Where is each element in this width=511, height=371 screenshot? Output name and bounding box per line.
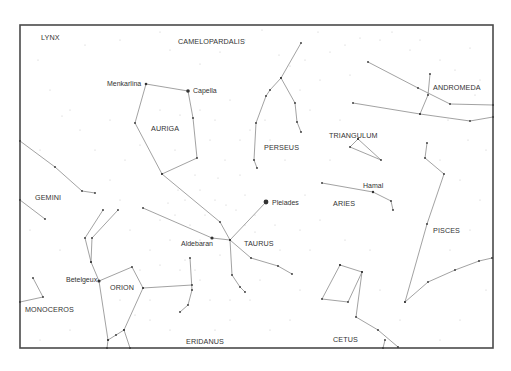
background-star (278, 54, 279, 55)
star-dot (291, 273, 293, 275)
star-dot (117, 209, 119, 211)
background-star (225, 204, 226, 205)
star-dot (81, 190, 83, 192)
star-dot (426, 223, 428, 225)
star-dot (426, 142, 428, 144)
background-star (159, 264, 160, 265)
background-star (319, 79, 320, 80)
background-star (69, 109, 70, 110)
constellation-label-monoceros: MONOCEROS (25, 305, 74, 314)
star-dot (244, 291, 246, 293)
constellation-label-pisces: PISCES (433, 226, 460, 235)
star-dot (404, 301, 406, 303)
star-dot (469, 120, 471, 122)
background-star (139, 269, 140, 270)
star-dot (84, 237, 86, 239)
background-star (159, 31, 160, 32)
background-star (149, 249, 150, 250)
star-dot (256, 167, 258, 169)
star-dot (107, 339, 109, 341)
background-star (59, 249, 60, 250)
chart-frame (20, 25, 493, 348)
background-star (177, 189, 178, 190)
star-dot (131, 266, 133, 268)
background-star (344, 44, 345, 45)
star-dot (191, 289, 193, 291)
constellation-label-triangulum: TRIANGULUM (329, 131, 378, 140)
star-dot (419, 113, 421, 115)
star-dot (42, 296, 44, 298)
background-star (179, 114, 180, 115)
background-star (194, 269, 195, 270)
background-star (379, 289, 380, 290)
star-dot (90, 261, 92, 263)
star-dot (296, 121, 298, 123)
background-star (439, 59, 440, 60)
background-star (249, 299, 250, 300)
background-star (204, 214, 205, 215)
star-dot (392, 209, 394, 211)
background-star (239, 139, 240, 140)
star-dot (367, 61, 369, 63)
star-label-menkarlina: Menkarlina (107, 80, 141, 87)
background-star (79, 129, 80, 130)
star-dot (491, 257, 493, 259)
background-star (119, 299, 120, 300)
star-dot (347, 301, 349, 303)
background-star (214, 119, 215, 120)
star-dot (253, 159, 255, 161)
background-star (229, 299, 230, 300)
background-star (391, 31, 392, 32)
star-dot (449, 103, 451, 105)
background-star (449, 249, 450, 250)
background-star (169, 239, 170, 240)
background-star (299, 289, 300, 290)
constellation-label-andromeda: ANDROMEDA (433, 83, 481, 92)
background-star (329, 51, 330, 52)
background-star (37, 59, 38, 60)
star-dot (492, 104, 494, 106)
background-star (167, 202, 168, 203)
background-star (179, 269, 180, 270)
star-dot (443, 173, 445, 175)
background-star (304, 59, 305, 60)
star-dot (492, 116, 494, 118)
background-star (229, 99, 230, 100)
background-star (289, 65, 290, 66)
star-dot (427, 94, 429, 96)
background-star (129, 229, 130, 230)
star-dot (384, 339, 386, 341)
star-dot (255, 122, 257, 124)
star-dot (129, 347, 131, 349)
star-dot (321, 298, 323, 300)
background-star (329, 159, 330, 160)
background-star (209, 139, 210, 140)
background-star (39, 339, 40, 340)
star-dot (390, 200, 392, 202)
star-dot (94, 192, 96, 194)
star-dot (380, 159, 382, 161)
background-star (219, 51, 220, 52)
constellation-label-taurus: TAURUS (244, 239, 274, 248)
star-dot (231, 274, 233, 276)
star-label-betelgeux: Betelgeux (66, 276, 98, 284)
background-star (194, 174, 195, 175)
star-dot (54, 166, 56, 168)
background-star (244, 194, 245, 195)
background-star (299, 229, 300, 230)
background-star (149, 299, 150, 300)
background-star (274, 224, 275, 225)
star-dot (427, 281, 429, 283)
background-star (94, 149, 95, 150)
star-dot (352, 102, 354, 104)
background-star (469, 47, 470, 48)
background-star (479, 199, 480, 200)
background-star (409, 49, 410, 50)
background-star (447, 119, 448, 120)
star-dot (339, 264, 341, 266)
background-star (485, 149, 486, 150)
background-star (299, 89, 300, 90)
background-star (454, 69, 455, 70)
background-star (229, 319, 230, 320)
background-star (119, 199, 120, 200)
